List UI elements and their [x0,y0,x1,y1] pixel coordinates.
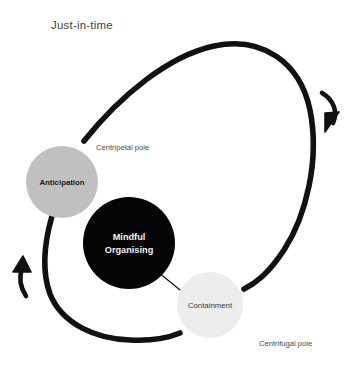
diagram-canvas: Just-in-time Anticipation Containment [0,0,363,365]
node-containment[interactable]: Containment [177,272,243,338]
mindful-organising-label-line1: Mindful [113,232,146,242]
centripetal-pole-label: Centripetal pole [96,143,149,152]
page-title: Just-in-time [51,19,113,31]
centrifugal-pole-label: Centrifugal pole [259,339,312,348]
node-anticipation[interactable]: Anticipation [26,146,98,218]
clockwise-arrow-right-icon [322,93,339,132]
containment-label: Containment [188,301,233,310]
counterclockwise-arrow-left-icon [13,256,31,296]
node-mindful-organising[interactable]: Mindful Organising [83,197,175,289]
anticipation-label: Anticipation [39,178,84,187]
mindful-organising-circle[interactable] [83,197,175,289]
mindful-organising-label-line2: Organising [105,245,154,255]
just-in-time-diagram: Just-in-time Anticipation Containment [0,0,363,365]
